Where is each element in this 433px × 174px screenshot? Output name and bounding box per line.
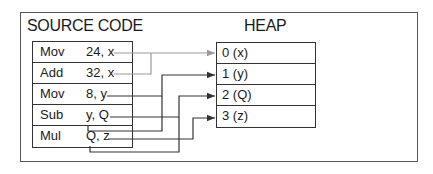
connector-lines: [0, 0, 433, 174]
q-link: [90, 96, 215, 152]
x-link: [114, 53, 215, 74]
y-link: [88, 75, 215, 131]
